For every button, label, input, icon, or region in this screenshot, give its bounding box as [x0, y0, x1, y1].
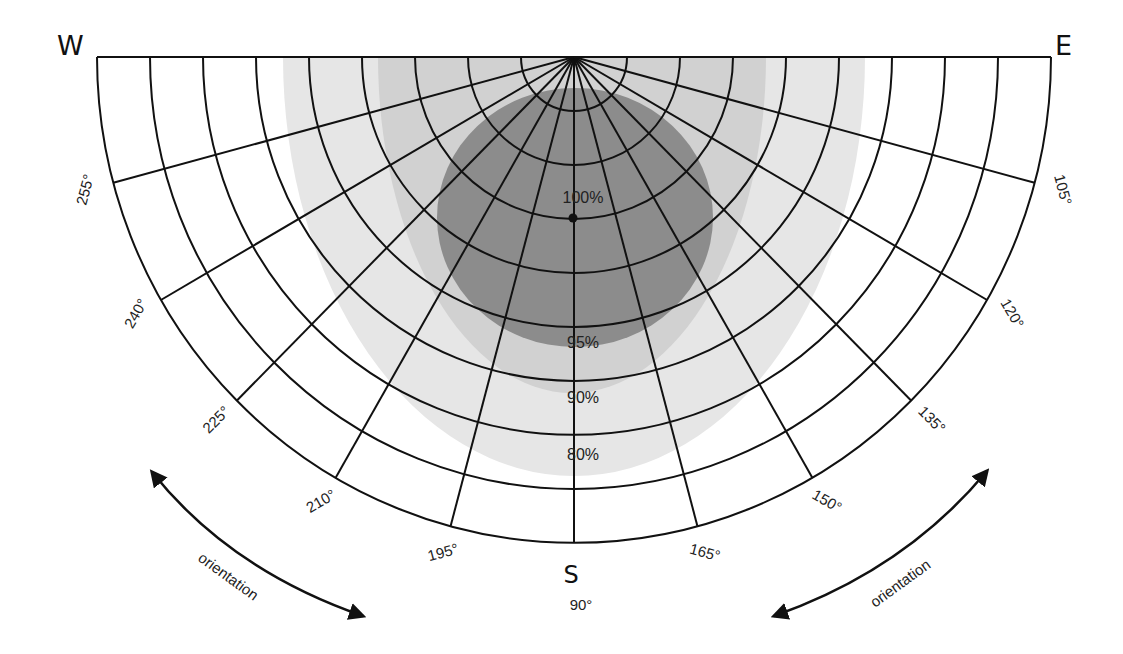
angle-label: 105° — [1051, 172, 1075, 206]
angle-label: 120° — [998, 296, 1028, 331]
west-label: W — [57, 30, 84, 61]
orientation-label-left: orientation — [195, 549, 262, 604]
angle-label: 135° — [915, 402, 949, 436]
angle-label: 150° — [810, 486, 845, 516]
zone-label: 95% — [567, 334, 599, 351]
zone-label: 80% — [567, 446, 599, 463]
angle-label: 195° — [426, 540, 460, 564]
orientation-diagram: 100%95%90%80% W E S 90° 255°240°225°210°… — [0, 0, 1123, 654]
angle-label: 240° — [120, 296, 150, 331]
angle-label: 210° — [303, 486, 338, 516]
zone-label: 90% — [567, 389, 599, 406]
south-label: S — [563, 561, 578, 589]
polar-grid — [97, 57, 1051, 543]
angle-label: 165° — [688, 540, 722, 564]
orientation-label-right: orientation — [867, 555, 934, 610]
angle-label: 225° — [199, 402, 233, 436]
zone-label: 100% — [563, 189, 604, 206]
orientation-arrow-right: orientation — [774, 471, 987, 616]
angle-label: 255° — [72, 172, 96, 206]
east-label: E — [1055, 30, 1072, 61]
south-degree-label: 90° — [570, 596, 593, 613]
optimum-point — [569, 214, 578, 223]
